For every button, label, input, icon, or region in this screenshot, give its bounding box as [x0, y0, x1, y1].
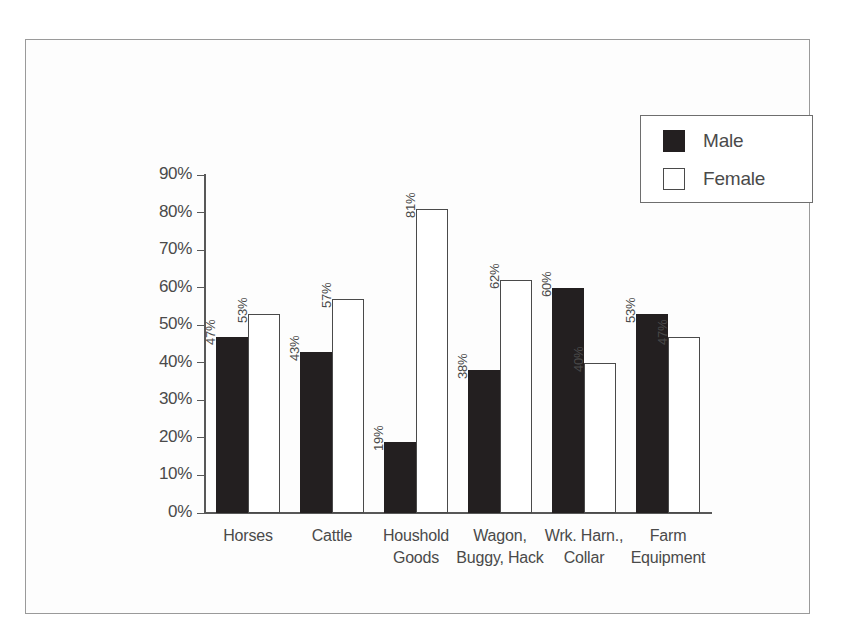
bar-female	[416, 209, 448, 513]
bar-male	[300, 352, 332, 513]
y-axis-tick-label: 90%	[132, 164, 192, 184]
bar-value-label: 57%	[319, 283, 334, 308]
legend-label-male: Male	[703, 130, 743, 152]
y-axis-tick	[197, 212, 204, 213]
bar-value-label: 38%	[455, 354, 470, 379]
bar-value-label: 81%	[403, 192, 418, 217]
category-label-5: Farm Equipment	[613, 525, 723, 569]
y-axis-tick	[197, 400, 204, 401]
bar-value-label: 47%	[655, 320, 670, 345]
bar-value-label: 60%	[539, 271, 554, 296]
y-axis-tick	[197, 513, 204, 514]
bar-female	[248, 314, 280, 513]
y-axis-tick-label: 70%	[132, 239, 192, 259]
bar-value-label: 47%	[203, 320, 218, 345]
bar-female	[668, 337, 700, 514]
plot-area: 47%53%43%57%19%81%38%62%60%40%53%47%	[204, 175, 712, 513]
y-axis-tick	[197, 287, 204, 288]
legend-item-male: Male	[663, 130, 743, 152]
y-axis-tick	[197, 437, 204, 438]
bar-male	[552, 288, 584, 513]
y-axis-tick	[197, 362, 204, 363]
y-axis-tick-label: 60%	[132, 277, 192, 297]
bar-value-label: 43%	[287, 335, 302, 360]
bar-female	[500, 280, 532, 513]
bar-value-label: 40%	[571, 346, 586, 371]
y-axis-tick-label: 30%	[132, 389, 192, 409]
bar-value-label: 19%	[371, 425, 386, 450]
y-axis-tick	[197, 475, 204, 476]
legend-label-female: Female	[703, 168, 765, 190]
y-axis-tick-label: 50%	[132, 314, 192, 334]
y-axis-tick	[197, 250, 204, 251]
y-axis-tick-label: 0%	[132, 502, 192, 522]
y-axis-labels: 0%10%20%30%40%50%60%70%80%90%	[128, 0, 192, 637]
bar-male	[384, 442, 416, 513]
y-axis-tick-label: 80%	[132, 202, 192, 222]
bar-male	[468, 370, 500, 513]
y-axis-tick	[197, 175, 204, 176]
legend-swatch-male-icon	[663, 130, 685, 152]
bar-value-label: 53%	[235, 298, 250, 323]
y-axis-tick-label: 10%	[132, 464, 192, 484]
bar-value-label: 62%	[487, 264, 502, 289]
bar-value-label: 53%	[623, 298, 638, 323]
y-axis-tick-label: 40%	[132, 352, 192, 372]
bar-female	[332, 299, 364, 513]
bar-male	[216, 337, 248, 514]
y-axis-tick-label: 20%	[132, 427, 192, 447]
bar-female	[584, 363, 616, 513]
